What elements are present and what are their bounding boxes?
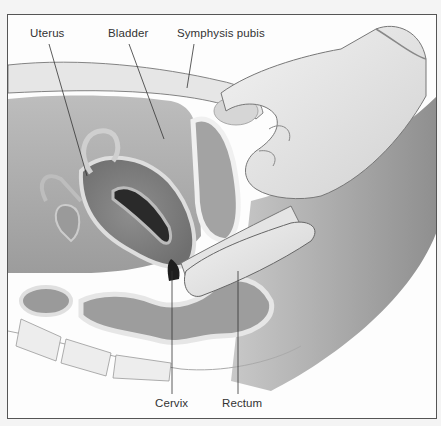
pelvic-illustration <box>8 15 436 418</box>
label-symphysis-pubis: Symphysis pubis <box>177 27 265 39</box>
colon-loop <box>21 287 71 315</box>
label-rectum: Rectum <box>222 397 262 409</box>
label-uterus: Uterus <box>30 27 64 39</box>
diagram-frame <box>7 14 437 419</box>
label-bladder: Bladder <box>108 27 148 39</box>
rectum <box>81 279 272 343</box>
bladder <box>193 119 238 241</box>
label-cervix: Cervix <box>155 397 188 409</box>
